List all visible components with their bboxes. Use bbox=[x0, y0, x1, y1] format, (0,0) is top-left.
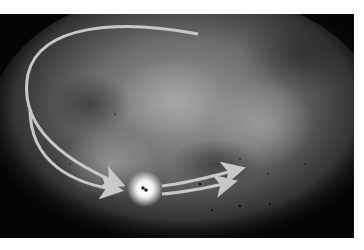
nebula-svg bbox=[0, 14, 354, 238]
nebula-illustration bbox=[0, 14, 354, 238]
